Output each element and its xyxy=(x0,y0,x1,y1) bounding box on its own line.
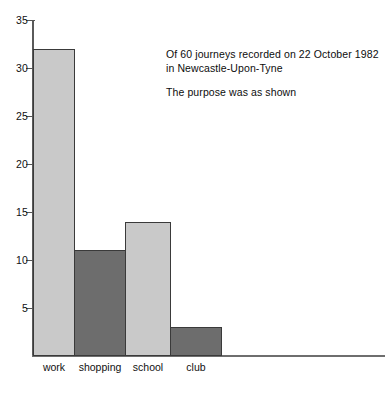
x-label-shopping: shopping xyxy=(74,362,126,373)
annotation-line-2: in Newcastle-Upon-Tyne xyxy=(166,62,391,76)
annotation-spacer xyxy=(166,75,391,86)
bar-chart-figure: 35 30 25 20 15 10 5 work shopping school… xyxy=(0,0,391,397)
x-label-work: work xyxy=(33,362,75,373)
chart-annotation: Of 60 journeys recorded on 22 October 19… xyxy=(166,48,391,100)
annotation-line-3: The purpose was as shown xyxy=(166,86,391,100)
bar-club xyxy=(170,327,222,356)
bar-work xyxy=(33,49,75,356)
x-label-school: school xyxy=(125,362,171,373)
annotation-line-1: Of 60 journeys recorded on 22 October 19… xyxy=(166,48,391,62)
bar-school xyxy=(125,222,171,356)
bar-shopping xyxy=(74,250,126,356)
x-label-club: club xyxy=(170,362,222,373)
